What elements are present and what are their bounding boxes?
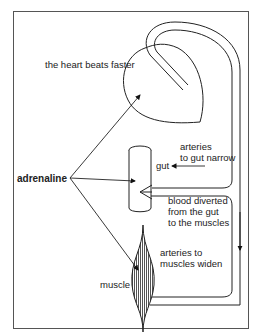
muscle-label: muscle (100, 279, 130, 290)
gut-arteries-label-1: arteries (180, 141, 212, 152)
blood-label-3: to the muscles (168, 217, 229, 228)
muscle-arteries-label-1: arteries to (160, 247, 202, 258)
blood-label-2: from the gut (168, 206, 219, 217)
gut-shape (129, 146, 152, 212)
blood-label-1: blood diverted (168, 195, 228, 206)
muscle-arteries-label-2: muscles widen (160, 258, 222, 269)
heart-label: the heart beats faster (45, 59, 135, 70)
muscle-shape (132, 225, 154, 332)
adrenaline-arrows (70, 95, 240, 270)
adrenaline-label: adrenaline (17, 173, 67, 184)
gut-label: gut (156, 160, 169, 171)
gut-arteries-label-2: to gut narrow (180, 152, 235, 163)
heart-shape (123, 44, 203, 123)
